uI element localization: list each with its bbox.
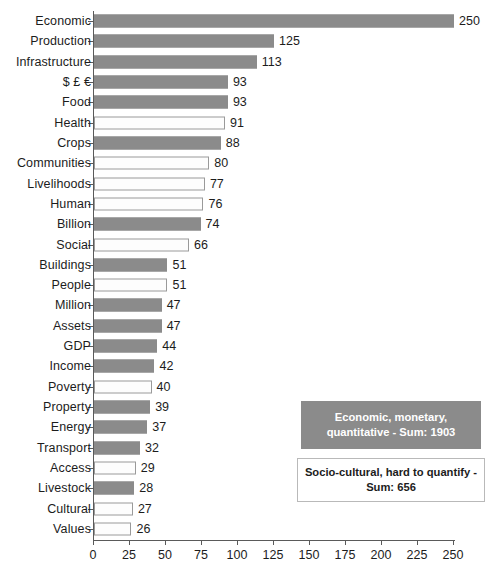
bar [94,340,157,353]
bar-value-label: 80 [214,156,228,170]
bar [94,522,131,535]
x-axis-tick-label: 50 [158,548,172,562]
bar [94,76,228,89]
category-label: Production [30,34,91,48]
bar [94,441,140,454]
bar-value-label: 93 [233,75,247,89]
category-label: Social [56,238,91,252]
legend-socio-cultural: Socio-cultural, hard to quantify - Sum: … [297,458,485,502]
bar [94,461,136,474]
category-label: Million [55,298,91,312]
bar-value-label: 44 [162,339,176,353]
x-axis-tick-label: 0 [90,548,97,562]
category-label: $ £ € [63,75,91,89]
bar [94,502,133,515]
category-label: Income [49,359,91,373]
bar-value-label: 37 [152,420,166,434]
bar [94,279,167,292]
bar [94,116,225,129]
x-axis-tick [201,540,202,545]
category-label: Health [54,116,91,130]
x-axis-tick-label: 225 [407,548,428,562]
bar-row: Food93 [0,92,489,112]
x-axis-tick-label: 125 [263,548,284,562]
bar-row: Billion74 [0,214,489,234]
bar-value-label: 77 [210,177,224,191]
bar [94,197,203,210]
bar-row: Social66 [0,234,489,254]
bar-value-label: 88 [226,136,240,150]
bar-row: Infrastructure113 [0,52,489,72]
bar [94,15,454,28]
bar-value-label: 26 [136,522,150,536]
x-axis-tick [453,540,454,545]
x-axis-tick-label: 200 [371,548,392,562]
bar [94,35,274,48]
bar-value-label: 113 [262,55,282,69]
category-label: Billion [57,217,91,231]
category-label: Cultural [47,502,91,516]
bar-value-label: 93 [233,95,247,109]
bar-value-label: 66 [194,238,208,252]
bar [94,380,152,393]
category-label: Assets [53,319,91,333]
horizontal-bar-chart: Economic250Production125Infrastructure11… [0,0,489,588]
x-axis-tick-label: 250 [443,548,464,562]
x-axis-ticks: 0255075100125150175200225250 [0,540,489,570]
category-label: Livestock [38,481,91,495]
category-label: Livelihoods [27,177,91,191]
category-label: Human [50,197,91,211]
x-axis-tick [273,540,274,545]
bar-value-label: 250 [459,14,480,28]
x-axis-tick [345,540,346,545]
bar [94,238,189,251]
category-label: Crops [57,136,91,150]
bar [94,482,134,495]
bar-row: Economic250 [0,11,489,31]
bar-row: Values26 [0,519,489,539]
bar [94,218,201,231]
bar-row: Communities80 [0,153,489,173]
x-axis-tick [93,540,94,545]
bar-row: Livelihoods77 [0,173,489,193]
category-label: People [51,278,91,292]
bar-value-label: 32 [145,441,159,455]
bar [94,96,228,109]
bar [94,177,205,190]
bar-row: Production125 [0,31,489,51]
bar-row: Poverty40 [0,377,489,397]
bar-value-label: 28 [139,481,153,495]
x-axis-tick-label: 25 [122,548,136,562]
bar-value-label: 29 [141,461,155,475]
legend-socio-cultural-label: Socio-cultural, hard to quantify - Sum: … [304,465,478,495]
bar-row: GDP44 [0,336,489,356]
bar [94,55,257,68]
category-label: Communities [17,156,91,170]
category-label: Economic [35,14,91,28]
bar-value-label: 74 [206,217,220,231]
x-axis-tick-label: 175 [335,548,356,562]
bar-row: People51 [0,275,489,295]
bar [94,258,167,271]
bar-value-label: 91 [230,116,244,130]
bar-value-label: 39 [155,400,169,414]
bar-row: Health91 [0,113,489,133]
bar-value-label: 47 [167,298,181,312]
x-axis-tick-label: 75 [194,548,208,562]
bar [94,136,221,149]
bar-row: Buildings51 [0,255,489,275]
x-axis-tick-label: 150 [299,548,320,562]
bar-value-label: 76 [208,197,222,211]
x-axis-tick [129,540,130,545]
x-axis-tick [237,540,238,545]
bar [94,319,162,332]
bar-value-label: 27 [138,502,152,516]
bar [94,157,209,170]
bar [94,421,147,434]
bar-row: $ £ €93 [0,72,489,92]
category-label: Infrastructure [16,55,91,69]
bar-row: Crops88 [0,133,489,153]
category-label: GDP [64,339,91,353]
category-label: Poverty [48,380,91,394]
category-label: Access [50,461,91,475]
